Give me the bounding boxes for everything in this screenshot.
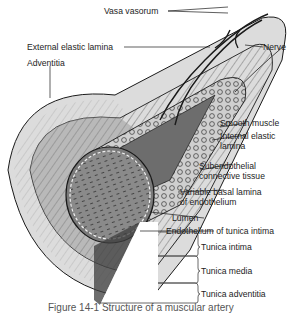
- label-nerve: Nerve: [263, 42, 286, 52]
- label-internal-elastic-lamina: Internal elastic lamina: [220, 131, 275, 151]
- label-external-elastic-lamina: External elastic lamina: [27, 42, 113, 52]
- label-endothelium: Endothelium of tunica intima: [166, 226, 274, 236]
- label-vasa-vasorum: Vasa vasorum: [104, 6, 158, 16]
- label-tunica-adventitia: Tunica adventitia: [201, 289, 266, 299]
- label-tunica-media: Tunica media: [201, 266, 252, 276]
- label-smooth-muscle: Smooth muscle: [220, 118, 279, 128]
- figure-caption: Figure 14-1 Structure of a muscular arte…: [48, 302, 234, 313]
- label-lumen: Lumen: [172, 213, 198, 223]
- label-subendothelial-connective-tissue: Subendothelial connective tissue: [199, 161, 265, 181]
- label-variable-basal-lamina: Variable basal lamina of endothelium: [180, 187, 262, 207]
- label-adventitia: Adventitia: [27, 58, 65, 68]
- label-tunica-intima: Tunica intima: [201, 242, 252, 252]
